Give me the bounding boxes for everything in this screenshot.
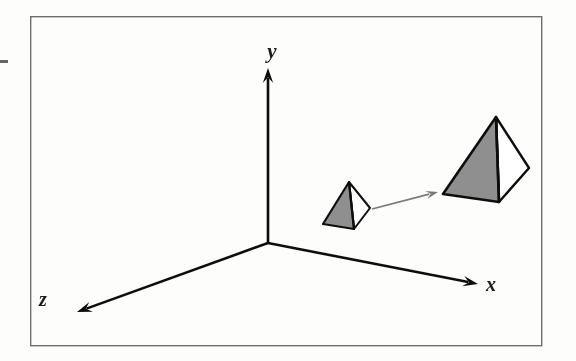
scan-artifact-mark [0, 60, 8, 63]
axis-label-x: x [485, 273, 496, 295]
figure-container: y x z [0, 0, 576, 361]
coordinate-system-figure: y x z [0, 0, 576, 361]
axis-label-z: z [38, 288, 47, 310]
